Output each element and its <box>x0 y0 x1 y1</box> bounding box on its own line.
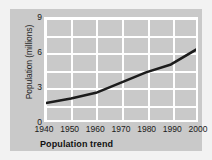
x-axis-tick-labels: 1940195019601970198019902000 <box>44 125 198 137</box>
chart-panel: Population (millions) 0369 1940195019601… <box>10 9 202 151</box>
chart-title: Population trend <box>40 139 113 149</box>
chart-figure: Population (millions) 0369 1940195019601… <box>0 0 212 160</box>
y-tick-label: 6 <box>30 48 42 57</box>
y-tick-label: 3 <box>30 83 42 92</box>
y-tick-label: 9 <box>30 13 42 22</box>
plot-area <box>44 17 198 122</box>
x-tick-label: 2000 <box>183 125 212 134</box>
population-line-series <box>46 19 196 121</box>
y-axis-tick-labels: 0369 <box>28 17 42 122</box>
